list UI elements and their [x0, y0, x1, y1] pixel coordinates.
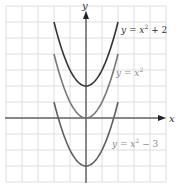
- label-bot-curve: y = x2 − 3: [111, 137, 159, 149]
- x-axis-label: x: [169, 113, 175, 124]
- label-top-post: + 2: [148, 25, 167, 35]
- y-axis-label: y: [81, 0, 88, 11]
- parabola-chart: x y y = x2 + 2 y = x2 y = x2 − 3: [0, 0, 178, 184]
- label-bot-pre: y =: [111, 139, 130, 149]
- label-top-pre: y =: [120, 25, 139, 35]
- y-axis-arrow-icon: [83, 11, 89, 19]
- label-bot-post: − 3: [139, 139, 158, 149]
- label-top-curve: y = x2 + 2: [120, 23, 167, 35]
- label-mid-pre: y =: [115, 68, 134, 78]
- label-mid-curve: y = x2: [115, 66, 143, 78]
- x-axis-arrow-icon: [158, 115, 166, 121]
- label-mid-exp: 2: [139, 66, 143, 73]
